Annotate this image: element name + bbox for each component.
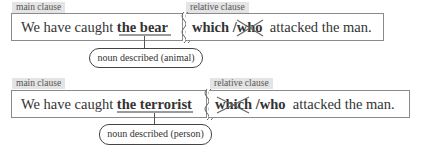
described-noun: the terrorist bbox=[117, 96, 192, 112]
main-clause-label: main clause bbox=[12, 2, 65, 13]
slash: / bbox=[252, 96, 260, 112]
noun-underline bbox=[119, 34, 171, 36]
main-clause-text: We have caught bbox=[21, 19, 117, 35]
noun-described-callout: noun described (animal) bbox=[89, 48, 203, 68]
relative-pronoun-which-crossed: which bbox=[215, 91, 252, 117]
relative-pronoun-which: which bbox=[192, 19, 229, 35]
relative-clause-box: which /who attacked the man. bbox=[186, 13, 384, 41]
cross-out-icon bbox=[235, 18, 265, 38]
connector-line bbox=[144, 36, 145, 48]
relative-clause-label: relative clause bbox=[186, 2, 249, 13]
main-clause-box: We have caught the bear bbox=[11, 13, 183, 41]
relative-clause-label: relative clause bbox=[210, 78, 273, 89]
relative-clause-rest: attacked the man. bbox=[270, 19, 372, 35]
relative-clause-box: which /who attacked the man. bbox=[209, 90, 410, 118]
noun-underline bbox=[117, 111, 193, 113]
relative-pronoun-who: who bbox=[260, 96, 286, 112]
connector-line bbox=[154, 113, 155, 124]
described-noun: the bear bbox=[117, 19, 168, 35]
relative-clause-rest: attacked the man. bbox=[293, 96, 395, 112]
cross-out-icon bbox=[213, 95, 253, 115]
main-clause-text: We have caught bbox=[21, 96, 117, 112]
main-clause-box: We have caught the terrorist bbox=[11, 90, 207, 118]
relative-pronoun-who-crossed: who bbox=[237, 14, 263, 40]
noun-described-callout: noun described (person) bbox=[99, 124, 212, 145]
main-clause-label: main clause bbox=[12, 78, 65, 89]
